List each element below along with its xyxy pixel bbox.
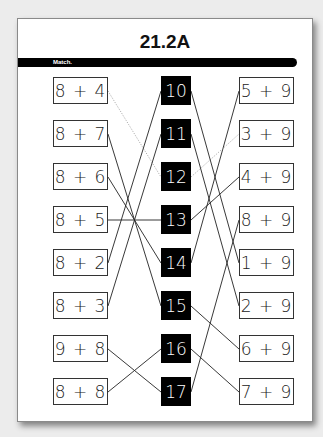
left-expr-text: 9 + 8 [55, 339, 107, 359]
left-expr-box[interactable]: 8 + 8 [53, 378, 108, 405]
left-expr-text: 8 + 2 [55, 253, 107, 273]
right-expr-box[interactable]: 2 + 9 [239, 292, 294, 319]
right-expr-box[interactable]: 1 + 9 [239, 249, 294, 276]
answer-number: 13 [165, 210, 187, 230]
answer-box[interactable]: 13 [161, 205, 191, 234]
left-expr-text: 8 + 8 [55, 382, 107, 402]
left-expr-box[interactable]: 8 + 2 [53, 249, 108, 276]
worksheet-title: 21.2A [18, 31, 312, 53]
right-expr-box[interactable]: 8 + 9 [239, 206, 294, 233]
right-expr-text: 7 + 9 [241, 382, 293, 402]
right-expr-box[interactable]: 5 + 9 [239, 77, 294, 104]
answer-number: 10 [165, 81, 187, 101]
left-expr-box[interactable]: 8 + 6 [53, 163, 108, 190]
left-expr-text: 8 + 7 [55, 124, 107, 144]
right-expr-text: 5 + 9 [241, 81, 293, 101]
right-expr-box[interactable]: 7 + 9 [239, 378, 294, 405]
left-expr-text: 8 + 6 [55, 167, 107, 187]
right-expr-text: 3 + 9 [241, 124, 293, 144]
answer-number: 16 [165, 339, 187, 359]
left-expr-box[interactable]: 8 + 3 [53, 292, 108, 319]
answer-box[interactable]: 17 [161, 377, 191, 406]
left-expr-text: 8 + 5 [55, 210, 107, 230]
answer-number: 14 [165, 253, 187, 273]
answer-box[interactable]: 15 [161, 291, 191, 320]
answer-box[interactable]: 10 [161, 76, 191, 105]
answer-box[interactable]: 14 [161, 248, 191, 277]
answer-number: 17 [165, 382, 187, 402]
right-expr-box[interactable]: 6 + 9 [239, 335, 294, 362]
answer-number: 15 [165, 296, 187, 316]
left-expr-box[interactable]: 8 + 4 [53, 77, 108, 104]
answer-number: 12 [165, 167, 187, 187]
left-expr-box[interactable]: 9 + 8 [53, 335, 108, 362]
answer-number: 11 [165, 124, 187, 144]
right-expr-text: 6 + 9 [241, 339, 293, 359]
instruction-bar: Match. [18, 58, 297, 67]
left-expr-text: 8 + 4 [55, 81, 107, 101]
right-expr-text: 8 + 9 [241, 210, 293, 230]
right-expr-text: 2 + 9 [241, 296, 293, 316]
instruction-text: Match. [53, 58, 72, 67]
left-expr-text: 8 + 3 [55, 296, 107, 316]
left-expr-box[interactable]: 8 + 7 [53, 120, 108, 147]
answer-box[interactable]: 16 [161, 334, 191, 363]
right-expr-box[interactable]: 4 + 9 [239, 163, 294, 190]
right-expr-text: 1 + 9 [241, 253, 293, 273]
answer-box[interactable]: 12 [161, 162, 191, 191]
left-expr-box[interactable]: 8 + 5 [53, 206, 108, 233]
answer-box[interactable]: 11 [161, 119, 191, 148]
right-expr-text: 4 + 9 [241, 167, 293, 187]
right-expr-box[interactable]: 3 + 9 [239, 120, 294, 147]
